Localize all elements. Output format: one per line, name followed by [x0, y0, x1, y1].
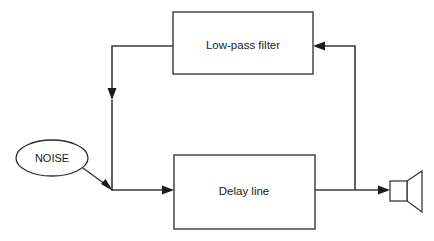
connection-line	[319, 46, 355, 190]
connection-delay-line-to-speaker	[315, 186, 390, 195]
arrow-head-right-icon	[162, 186, 174, 195]
node-label-noise: NOISE	[35, 152, 69, 164]
block-delay-line[interactable]: Delay line	[174, 155, 315, 229]
connection-line	[112, 46, 173, 95]
connection-summing-node-to-delay-line	[112, 100, 174, 195]
block-low-pass-filter[interactable]: Low-pass filter	[173, 12, 313, 74]
connection-lpf-output-to-summing-node	[108, 46, 174, 100]
arrow-head-left-icon	[313, 42, 325, 51]
block-diagram-canvas: Low-pass filter Delay line NOISE	[0, 0, 434, 241]
speaker-body-shape	[390, 181, 407, 201]
arrow-head-down-icon	[108, 88, 117, 100]
node-noise-source[interactable]: NOISE	[16, 140, 88, 176]
connection-feedback-to-low-pass-filter	[313, 42, 355, 191]
speaker-icon[interactable]	[390, 171, 422, 212]
connection-line	[112, 100, 168, 190]
diagram-svg: Low-pass filter Delay line NOISE	[0, 0, 434, 241]
speaker-horn-shape	[407, 171, 422, 212]
block-label-low-pass-filter: Low-pass filter	[206, 39, 280, 51]
arrow-head-right-icon	[378, 186, 390, 195]
connection-noise-to-summing-junction	[83, 168, 113, 191]
block-label-delay-line: Delay line	[219, 185, 270, 197]
